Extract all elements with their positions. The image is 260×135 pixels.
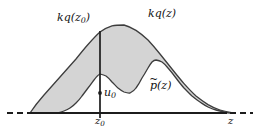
figure-container: kq(z0) kq(z) ~p(z) u0 z0 z: [0, 0, 260, 135]
tilde-accent-icon: ~: [149, 74, 158, 84]
label-kq-z0: kq(z0): [57, 12, 90, 25]
label-kq-z-q: q: [155, 7, 162, 20]
figure-canvas: [0, 0, 260, 135]
shaded-region-group: [30, 25, 235, 113]
axis-label-z-base: z: [228, 115, 233, 126]
label-p-tilde-close: ): [167, 79, 171, 92]
label-kq-z-close: ): [172, 7, 176, 20]
label-kq-z: kq(z): [148, 8, 176, 19]
label-p-tilde-base-wrap: ~p: [150, 80, 157, 91]
axis-label-z0: z0: [95, 116, 105, 127]
label-kq-z0-q: q: [64, 11, 71, 24]
label-u0: u0: [104, 87, 116, 100]
label-kq-z0-close: ): [86, 11, 90, 24]
label-u0-subscript: 0: [111, 91, 116, 100]
axis-label-z: z: [228, 116, 233, 126]
label-kq-z-k: k: [148, 7, 155, 20]
axis-label-z0-subscript: 0: [100, 119, 105, 128]
label-p-tilde-z: ~p(z): [150, 80, 171, 91]
label-kq-z0-k: k: [57, 11, 64, 24]
marker-dot-u0: [98, 91, 102, 95]
